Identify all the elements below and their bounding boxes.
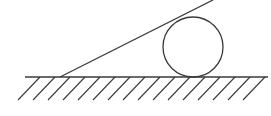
inclined-plane-line: [60, 0, 213, 77]
ground-hatching: [18, 77, 265, 100]
circle-cylinder: [163, 17, 223, 77]
diagram-canvas: [0, 0, 271, 116]
